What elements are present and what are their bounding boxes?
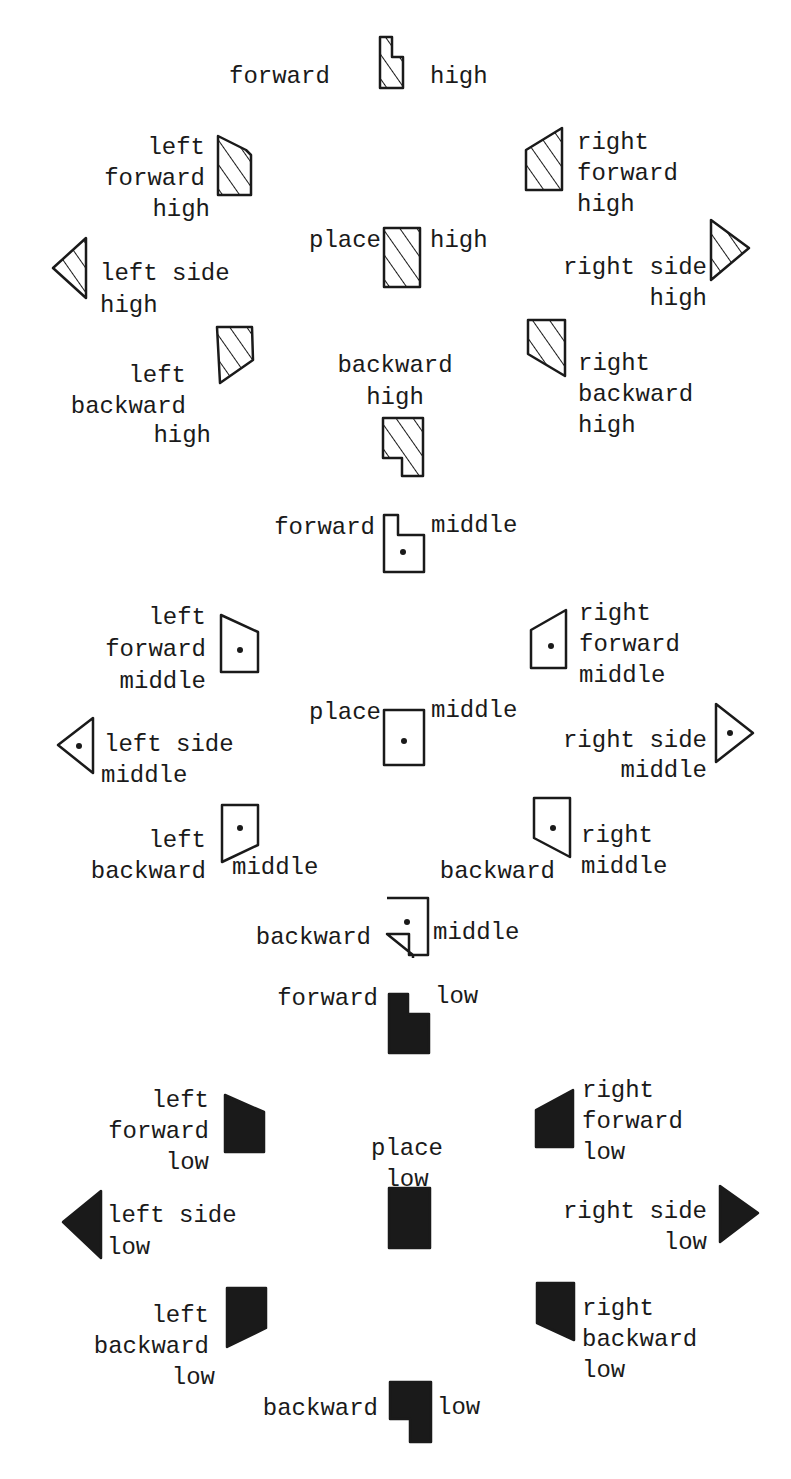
backward-low-icon [390,1382,431,1442]
right-forward-high-icon [526,128,562,190]
right-backward-low-label-3: low [582,1355,625,1386]
forward-high-icon [380,37,403,88]
right-backward-middle-label-3: middle [581,851,667,882]
right-side-high-label-1: right side [563,252,707,283]
backward-low-label-2: low [437,1392,480,1423]
left-backward-high-label-1: left [128,360,186,391]
right-side-low-label-2: low [664,1227,707,1258]
right-forward-middle-label-2: forward [579,629,680,660]
place-low-icon [389,1188,430,1248]
left-forward-low-label-2: forward [108,1116,209,1147]
right-forward-middle-label-1: right [579,598,651,629]
left-side-high-label-2: high [100,290,158,321]
right-backward-low-label-2: backward [582,1324,697,1355]
place-low-label-1: place [352,1133,462,1164]
right-backward-middle-label-2: backward [440,856,555,887]
right-forward-low-icon [536,1090,573,1147]
place-high-label-2: high [430,225,488,256]
left-forward-middle-icon [221,615,258,672]
right-backward-low-icon [537,1283,574,1340]
forward-low-icon [389,994,429,1053]
left-backward-low-icon [227,1288,266,1347]
left-side-low-label-1: left side [107,1200,237,1231]
right-forward-low-label-2: forward [582,1106,683,1137]
forward-middle-icon [384,515,424,572]
right-side-low-icon [720,1186,758,1242]
left-forward-high-label-2: forward [104,163,205,194]
right-backward-high-label-1: right [578,348,650,379]
forward-middle-label-2: middle [431,510,517,541]
right-forward-low-label-1: right [582,1075,654,1106]
left-forward-high-label-1: left [147,132,205,163]
left-side-high-label-1: left side [100,258,230,289]
right-forward-middle-icon [531,610,566,668]
backward-high-icon [383,418,423,476]
left-forward-middle-label-1: left [148,602,206,633]
left-backward-low-label-3: low [172,1362,215,1393]
right-backward-high-label-3: high [578,410,636,441]
backward-middle-label-1: backward [256,922,371,953]
right-side-high-icon [711,220,749,280]
right-side-middle-label-2: middle [621,755,707,786]
left-forward-high-label-3: high [152,194,210,225]
left-forward-low-label-3: low [166,1147,209,1178]
right-forward-middle-label-3: middle [579,660,665,691]
left-forward-middle-label-3: middle [120,666,206,697]
right-side-middle-label-1: right side [563,725,707,756]
right-forward-high-label-1: right [577,127,649,158]
place-middle-label-2: middle [431,695,517,726]
right-side-high-label-2: high [649,283,707,314]
left-backward-high-icon [217,327,253,383]
left-backward-middle-label-1: left [148,825,206,856]
backward-low-label-1: backward [263,1393,378,1424]
forward-high-label-1: forward [229,61,330,92]
place-high-icon [384,228,420,287]
right-forward-low-label-3: low [582,1137,625,1168]
forward-high-label-2: high [430,61,488,92]
backward-middle-icon [387,898,428,958]
left-backward-middle-label-2: backward [91,856,206,887]
place-middle-label-1: place [309,697,381,728]
left-backward-high-label-2: backward [71,391,186,422]
right-backward-high-label-2: backward [578,379,693,410]
forward-low-label-2: low [435,981,478,1012]
left-side-low-label-2: low [107,1232,150,1263]
left-backward-low-label-1: left [151,1300,209,1331]
forward-low-label-1: forward [277,983,378,1014]
backward-middle-label-2: middle [433,917,519,948]
left-backward-high-label-3: high [153,420,211,451]
place-low-label-2: low [352,1164,462,1195]
left-side-high-icon [53,238,86,298]
direction-symbols-diagram: forward high left forward high right for… [0,0,791,1479]
place-middle-icon [384,710,424,765]
right-backward-middle-label-1: right [581,820,653,851]
backward-high-label-1: backward [322,350,468,381]
right-side-low-label-1: right side [563,1196,707,1227]
forward-middle-label-1: forward [274,512,375,543]
left-forward-low-icon [225,1095,264,1152]
left-forward-middle-label-2: forward [105,634,206,665]
backward-high-label-2: high [322,382,468,413]
left-forward-high-icon [218,136,251,195]
right-forward-high-label-2: forward [577,158,678,189]
left-side-middle-label-1: left side [104,729,234,760]
left-backward-low-label-2: backward [94,1331,209,1362]
left-side-low-icon [63,1191,101,1258]
place-high-label-1: place [309,225,381,256]
right-backward-low-label-1: right [582,1293,654,1324]
left-side-middle-icon [58,718,93,773]
right-forward-high-label-3: high [577,189,635,220]
right-backward-high-icon [528,320,565,376]
right-side-middle-icon [716,704,753,762]
left-side-middle-label-2: middle [101,760,187,791]
left-forward-low-label-1: left [151,1085,209,1116]
left-backward-middle-label-3: middle [232,852,318,883]
